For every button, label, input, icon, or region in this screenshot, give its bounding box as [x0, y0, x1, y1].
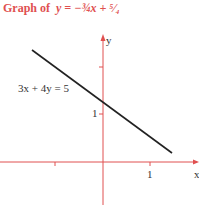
x-tick-label: 1 [147, 168, 153, 180]
y-axis-label: y [106, 34, 112, 46]
graph-canvas [0, 0, 199, 205]
y-axis-arrow-icon [101, 34, 106, 41]
x-axis-arrow-icon [193, 160, 199, 165]
equation-label: 3x + 4y = 5 [18, 82, 69, 94]
x-axis-label: x [194, 168, 199, 180]
y-tick-label: 1 [92, 107, 98, 119]
graph-line [32, 50, 172, 153]
